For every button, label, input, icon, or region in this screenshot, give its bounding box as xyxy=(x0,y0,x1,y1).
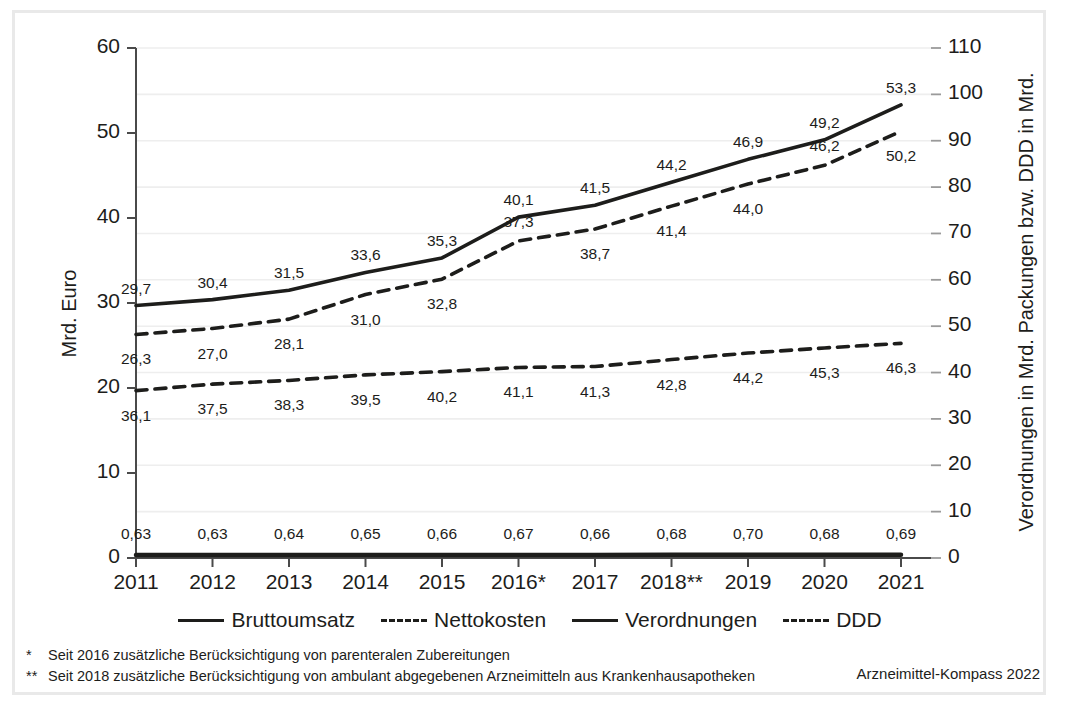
data-label-bruttoumsatz: 35,3 xyxy=(402,232,482,250)
data-label-bruttoumsatz: 41,5 xyxy=(555,179,635,197)
data-label-ddd: 45,3 xyxy=(785,364,865,382)
y-tick-left: 10 xyxy=(70,459,120,483)
data-label-nettokosten: 38,7 xyxy=(555,245,635,263)
footnote-row: *Seit 2016 zusätzliche Berücksichtigung … xyxy=(26,645,1026,666)
legend-swatch-dashed-line-icon xyxy=(381,619,427,622)
footnote-text: Seit 2018 zusätzliche Berücksichtigung v… xyxy=(48,668,755,684)
data-label-verordnungen: 0,68 xyxy=(632,525,712,543)
y-tick-right: 90 xyxy=(948,127,971,151)
data-label-ddd: 42,8 xyxy=(632,376,712,394)
data-label-bruttoumsatz: 44,2 xyxy=(632,156,712,174)
data-label-bruttoumsatz: 49,2 xyxy=(785,114,865,132)
legend-item-verordnungen[interactable]: Verordnungen xyxy=(572,608,757,632)
y-tick-right: 0 xyxy=(948,544,960,568)
legend-label: Nettokosten xyxy=(434,608,546,632)
data-label-verordnungen: 0,64 xyxy=(249,525,329,543)
legend-item-bruttoumsatz[interactable]: Bruttoumsatz xyxy=(178,608,355,632)
y-tick-right: 30 xyxy=(948,405,971,429)
y-axis-right-title: Verordnungen in Mrd. Packungen bzw. DDD … xyxy=(1015,92,1038,532)
data-label-ddd: 40,2 xyxy=(402,388,482,406)
footnote-marker: * xyxy=(26,645,48,666)
data-label-bruttoumsatz: 30,4 xyxy=(173,274,253,292)
data-label-ddd: 38,3 xyxy=(249,396,329,414)
footnote-text: Seit 2016 zusätzliche Berücksichtigung v… xyxy=(48,647,510,663)
data-label-ddd: 46,3 xyxy=(861,359,941,377)
data-label-verordnungen: 0,70 xyxy=(708,525,788,543)
data-label-bruttoumsatz: 40,1 xyxy=(479,191,559,209)
data-label-nettokosten: 26,3 xyxy=(96,350,176,368)
data-label-ddd: 39,5 xyxy=(326,391,406,409)
legend-item-nettokosten[interactable]: Nettokosten xyxy=(381,608,546,632)
data-label-bruttoumsatz: 46,9 xyxy=(708,133,788,151)
y-tick-right: 80 xyxy=(948,173,971,197)
data-label-verordnungen: 0,66 xyxy=(555,525,635,543)
data-label-verordnungen: 0,65 xyxy=(326,525,406,543)
y-tick-left: 50 xyxy=(70,119,120,143)
data-label-nettokosten: 37,3 xyxy=(479,213,559,231)
data-label-verordnungen: 0,63 xyxy=(173,525,253,543)
data-label-ddd: 37,5 xyxy=(173,400,253,418)
y-axis-left-title: Mrd. Euro xyxy=(58,239,81,389)
data-label-verordnungen: 0,69 xyxy=(861,525,941,543)
y-tick-right: 110 xyxy=(948,34,981,58)
legend-label: Bruttoumsatz xyxy=(231,608,355,632)
y-tick-right: 60 xyxy=(948,266,971,290)
figure-container: Mrd. Euro Verordnungen in Mrd. Packungen… xyxy=(0,0,1066,714)
data-label-nettokosten: 50,2 xyxy=(861,147,941,165)
data-label-ddd: 36,1 xyxy=(96,407,176,425)
data-label-bruttoumsatz: 31,5 xyxy=(249,264,329,282)
data-label-bruttoumsatz: 29,7 xyxy=(96,280,176,298)
source-credit: Arzneimittel-Kompass 2022 xyxy=(857,665,1040,682)
series-lines xyxy=(136,105,901,555)
data-label-nettokosten: 44,0 xyxy=(708,200,788,218)
y-tick-right: 40 xyxy=(948,359,971,383)
y-tick-left: 20 xyxy=(70,374,120,398)
data-label-bruttoumsatz: 33,6 xyxy=(326,246,406,264)
chart-legend: BruttoumsatzNettokostenVerordnungenDDD xyxy=(130,608,930,632)
data-label-verordnungen: 0,66 xyxy=(402,525,482,543)
y-tick-left: 60 xyxy=(70,34,120,58)
legend-swatch-solid-line-icon xyxy=(572,619,618,622)
legend-swatch-solid-line-icon xyxy=(178,619,224,622)
x-tick: 2021 xyxy=(841,570,961,594)
footnote-marker: ** xyxy=(26,666,48,687)
legend-swatch-dashed-line-icon xyxy=(783,619,829,622)
data-label-ddd: 41,1 xyxy=(479,383,559,401)
legend-label: DDD xyxy=(836,608,882,632)
y-tick-right: 10 xyxy=(948,498,971,522)
data-label-ddd: 41,3 xyxy=(555,383,635,401)
y-tick-right: 100 xyxy=(948,80,983,104)
data-label-nettokosten: 28,1 xyxy=(249,335,329,353)
y-tick-right: 50 xyxy=(948,312,971,336)
data-label-nettokosten: 27,0 xyxy=(173,345,253,363)
data-label-nettokosten: 46,2 xyxy=(785,137,865,155)
data-label-bruttoumsatz: 53,3 xyxy=(861,79,941,97)
legend-label: Verordnungen xyxy=(625,608,757,632)
data-label-nettokosten: 32,8 xyxy=(402,295,482,313)
data-label-ddd: 44,2 xyxy=(708,369,788,387)
data-label-verordnungen: 0,68 xyxy=(785,525,865,543)
legend-item-ddd[interactable]: DDD xyxy=(783,608,882,632)
y-tick-left: 40 xyxy=(70,204,120,228)
data-label-verordnungen: 0,67 xyxy=(479,525,559,543)
data-label-nettokosten: 41,4 xyxy=(632,222,712,240)
data-label-verordnungen: 0,63 xyxy=(96,525,176,543)
data-label-nettokosten: 31,0 xyxy=(326,311,406,329)
y-tick-right: 20 xyxy=(948,451,971,475)
y-tick-right: 70 xyxy=(948,219,971,243)
y-tick-left: 0 xyxy=(70,544,120,568)
